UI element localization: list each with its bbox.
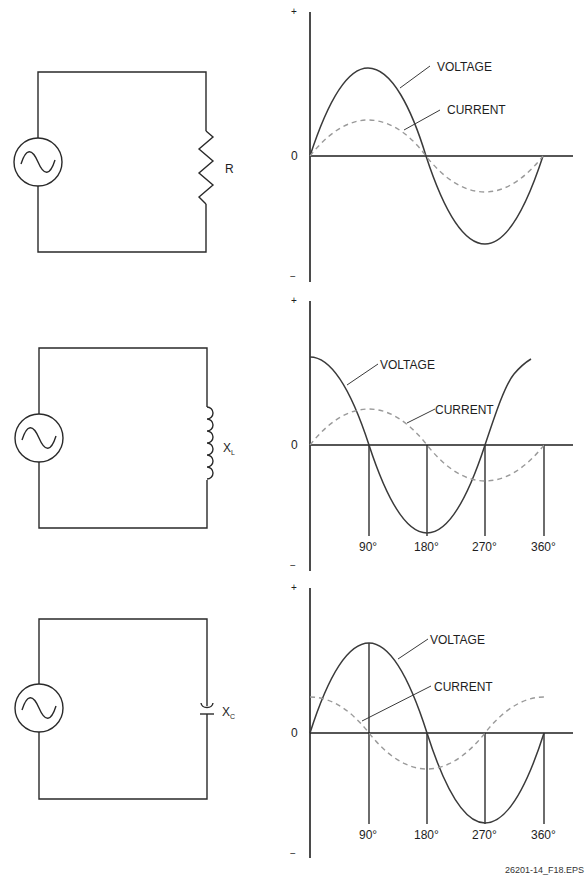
- voltage-leader-line: [400, 66, 430, 88]
- component-label-r: R: [225, 162, 234, 176]
- resistor-icon: [199, 131, 213, 204]
- y-axis-minus-label: −: [290, 848, 296, 859]
- inductor-icon: [207, 407, 213, 479]
- circuit-resistive: R: [14, 72, 234, 252]
- current-label: CURRENT: [447, 103, 506, 117]
- voltage-label: VOLTAGE: [437, 60, 492, 74]
- circuit-wire-bottom: [38, 186, 206, 252]
- tick-label-90: 90°: [359, 828, 377, 842]
- y-axis-plus-label: +: [291, 6, 297, 17]
- figure-canvas: R + − 0 VOLTAGE CURRENT XL + − 0: [0, 0, 587, 880]
- tick-label-270: 270°: [472, 828, 497, 842]
- component-label-xl: XL: [223, 441, 235, 456]
- figure-file-label: 26201-14_F18.EPS: [505, 865, 584, 875]
- voltage-label: VOLTAGE: [430, 633, 485, 647]
- zero-label: 0: [291, 726, 298, 740]
- y-axis-plus-label: +: [291, 582, 297, 593]
- circuit-wire-top: [39, 619, 207, 706]
- circuit-wire-bottom: [39, 462, 207, 528]
- waveform-chart-resistive: + − 0 VOLTAGE CURRENT: [290, 6, 573, 282]
- tick-label-180: 180°: [414, 828, 439, 842]
- voltage-leader-line: [398, 639, 428, 659]
- voltage-label: VOLTAGE: [380, 358, 435, 372]
- circuit-wire-top: [39, 348, 207, 414]
- ac-source-icon: [15, 414, 63, 462]
- circuit-wire-top: [38, 72, 206, 138]
- voltage-leader-line: [347, 364, 378, 385]
- tick-label-360: 360°: [531, 540, 556, 554]
- circuit-wire-bottom: [39, 714, 207, 799]
- current-label: CURRENT: [434, 680, 493, 694]
- circuit-capacitive: XC: [15, 619, 235, 799]
- waveform-chart-inductive: + − 0 VOLTAGE CURRENT 90° 180° 270° 360°: [290, 295, 573, 571]
- circuit-inductive: XL: [15, 348, 235, 528]
- waveform-chart-capacitive: + − 0 VOLTAGE CURRENT 90° 180° 270° 360°: [290, 582, 573, 859]
- ac-source-icon: [15, 684, 63, 732]
- tick-label-90: 90°: [359, 540, 377, 554]
- y-axis-minus-label: −: [290, 560, 296, 571]
- tick-label-270: 270°: [472, 540, 497, 554]
- y-axis-plus-label: +: [291, 295, 297, 306]
- tick-label-360: 360°: [531, 828, 556, 842]
- ac-source-icon: [14, 138, 62, 186]
- zero-label: 0: [291, 438, 298, 452]
- y-axis-minus-label: −: [290, 271, 296, 282]
- tick-label-180: 180°: [414, 540, 439, 554]
- current-leader-line: [407, 409, 435, 423]
- zero-label: 0: [291, 149, 298, 163]
- component-label-xc: XC: [222, 705, 235, 720]
- current-label: CURRENT: [435, 403, 494, 417]
